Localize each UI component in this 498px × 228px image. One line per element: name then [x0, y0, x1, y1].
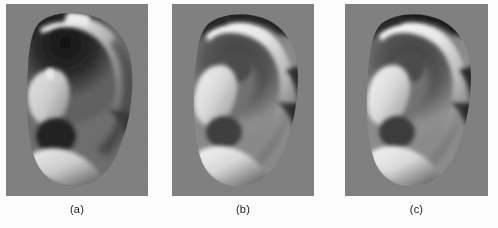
figure-panel-c: (c)	[345, 0, 488, 228]
ear-image-c	[345, 4, 488, 196]
ear-illustration-c	[345, 4, 488, 196]
figure-container: (a)	[0, 0, 498, 228]
ear-illustration-a	[6, 4, 148, 196]
figure-panel-a: (a)	[6, 0, 148, 228]
ear-image-b	[172, 4, 314, 196]
figure-panel-b: (b)	[172, 0, 314, 228]
ear-illustration-b	[172, 4, 314, 196]
ear-image-a	[6, 4, 148, 196]
panel-caption-c: (c)	[345, 202, 488, 216]
panel-caption-b: (b)	[172, 202, 314, 216]
panel-caption-a: (a)	[6, 202, 148, 216]
